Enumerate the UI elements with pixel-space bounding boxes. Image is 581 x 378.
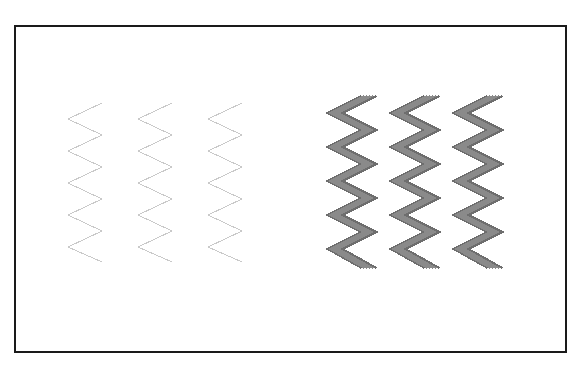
zigzag-canvas: [0, 0, 581, 378]
thin-zigzag-3-stroke: [208, 103, 242, 262]
thin-zigzag-1-stroke: [68, 103, 102, 262]
thick-zigzag-group: [328, 96, 503, 268]
thin-zigzag-2-stroke: [138, 103, 172, 262]
thin-zigzag-3: [208, 103, 242, 262]
thin-zigzag-group: [68, 103, 242, 262]
thick-zigzag-1: [328, 96, 377, 268]
thin-zigzag-1: [68, 103, 102, 262]
thick-zigzag-3: [454, 96, 503, 268]
figure-root: [0, 0, 581, 378]
thin-zigzag-2: [138, 103, 172, 262]
thick-zigzag-2: [391, 96, 440, 268]
